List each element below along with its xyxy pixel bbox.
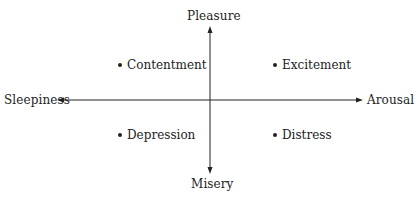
quadrant-item-contentment: Contentment bbox=[118, 58, 207, 72]
quadrant-item-depression: Depression bbox=[118, 128, 195, 142]
quadrant-label: Excitement bbox=[282, 58, 351, 72]
axis-label-pleasure: Pleasure bbox=[187, 9, 241, 23]
arrow-down-icon bbox=[208, 167, 213, 174]
bullet-icon bbox=[118, 63, 122, 67]
arrow-right-icon bbox=[356, 98, 363, 103]
quadrant-label: Distress bbox=[282, 128, 332, 142]
bullet-icon bbox=[273, 133, 277, 137]
axis-label-misery: Misery bbox=[191, 177, 234, 191]
axis-label-arousal: Arousal bbox=[367, 93, 414, 107]
quadrant-label: Depression bbox=[127, 128, 195, 142]
bullet-icon bbox=[118, 133, 122, 137]
quadrant-item-excitement: Excitement bbox=[273, 58, 351, 72]
arrow-up-icon bbox=[208, 26, 213, 33]
quadrant-label: Contentment bbox=[127, 58, 207, 72]
quadrant-item-distress: Distress bbox=[273, 128, 332, 142]
bullet-icon bbox=[273, 63, 277, 67]
axis-label-sleepiness: Sleepiness bbox=[4, 93, 70, 107]
